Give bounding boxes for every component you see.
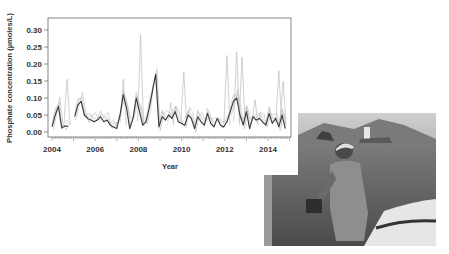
figure: 0.000.050.100.150.200.250.30 20042006200… (0, 0, 449, 254)
y-axis-title: Phosphate concentration (µmoles/L) (5, 13, 14, 143)
y-tick-label: 0.15 (26, 77, 42, 86)
y-tick-label: 0.20 (26, 60, 42, 69)
x-tick-label: 2008 (130, 145, 148, 154)
field-sampling-photo (264, 113, 436, 246)
y-tick-label: 0.30 (26, 26, 42, 35)
y-tick-label: 0.05 (26, 111, 42, 120)
x-tick-label: 2006 (86, 145, 104, 154)
y-tick-label: 0.25 (26, 43, 42, 52)
mean-line (52, 74, 285, 128)
sampling-device (306, 199, 322, 213)
x-tick-label: 2012 (216, 145, 234, 154)
x-tick-label: 2010 (173, 145, 191, 154)
y-tick-label: 0.00 (26, 128, 42, 137)
x-tick-label: 2004 (43, 145, 61, 154)
x-axis: 200420062008201020122014 (43, 137, 289, 154)
y-axis: 0.000.050.100.150.200.250.30 (26, 26, 48, 137)
x-axis-title: Year (162, 162, 178, 171)
y-tick-label: 0.10 (26, 94, 42, 103)
